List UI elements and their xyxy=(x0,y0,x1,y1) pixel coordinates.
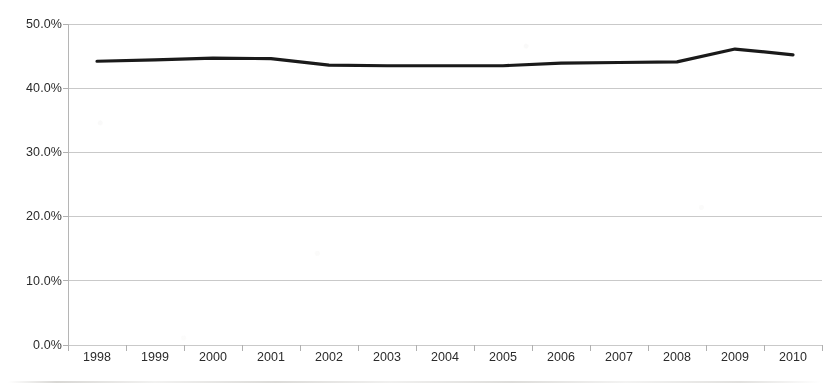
axis-lines xyxy=(63,24,68,345)
x-tick-label-2009: 2009 xyxy=(706,351,764,375)
chart-container: 50.0% 40.0% 30.0% 20.0% 10.0% 0.0% 1998 … xyxy=(0,0,835,384)
x-tick-label-2008: 2008 xyxy=(648,351,706,375)
x-tick-label-2006: 2006 xyxy=(532,351,590,375)
data-series-layer xyxy=(97,49,793,66)
series-line-0 xyxy=(97,49,793,66)
x-tick-label-2005: 2005 xyxy=(474,351,532,375)
x-tick-label-2004: 2004 xyxy=(416,351,474,375)
x-tick-label-2002: 2002 xyxy=(300,351,358,375)
x-tick-label-2003: 2003 xyxy=(358,351,416,375)
x-tick-label-2010: 2010 xyxy=(764,351,822,375)
x-axis-labels: 1998 1999 2000 2001 2002 2003 2004 2005 … xyxy=(68,351,822,375)
plot-area xyxy=(0,0,835,384)
x-tick-label-1998: 1998 xyxy=(68,351,126,375)
x-tick-label-2000: 2000 xyxy=(184,351,242,375)
x-tick-label-2001: 2001 xyxy=(242,351,300,375)
x-tick-label-1999: 1999 xyxy=(126,351,184,375)
gridlines xyxy=(68,24,822,345)
x-tick-label-2007: 2007 xyxy=(590,351,648,375)
